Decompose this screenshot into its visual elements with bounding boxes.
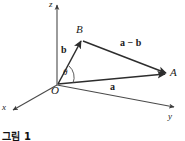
vector-a-label: a (110, 82, 115, 92)
x-axis-label: x (2, 103, 6, 112)
y-axis-line (57, 85, 174, 107)
figure-caption: 그림 1 (2, 128, 31, 141)
point-b-label: B (76, 24, 83, 35)
vector-b-label: b (61, 45, 67, 55)
angle-theta-arc (69, 66, 74, 83)
origin-label: O (51, 85, 59, 96)
angle-theta-label: θ (63, 68, 67, 77)
y-axis-label: y (168, 112, 172, 121)
vector-diagram-canvas (0, 0, 185, 141)
vector-a-minus-b-label: a − b (120, 38, 141, 48)
z-axis-label: z (49, 0, 53, 9)
vector-figure: z x y O A B a b a − b θ 그림 1 (0, 0, 185, 141)
point-a-label: A (170, 67, 177, 78)
